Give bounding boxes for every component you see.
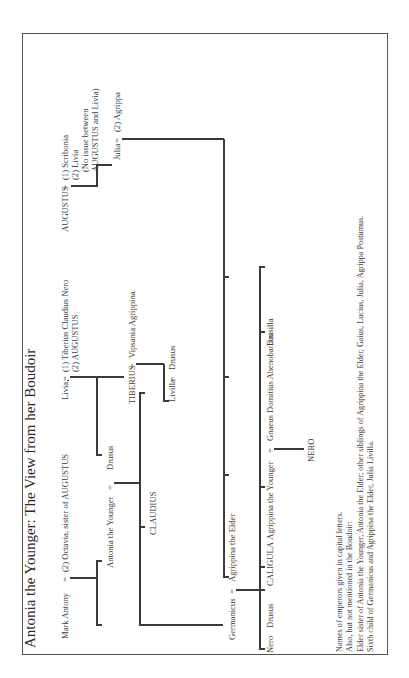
descent-line — [136, 363, 164, 365]
person-tiberius: TIBERIUS — [127, 365, 137, 404]
child-line-germanicus — [139, 624, 223, 626]
person-gnaeus: Gnaeus Domitius Ahenobarbus — [265, 334, 275, 441]
marriage-symbol: = — [112, 138, 122, 143]
person-drusus-younger: Drusus — [167, 346, 177, 370]
person-agrippina-younger: Agrippina the Younger — [265, 461, 275, 540]
child-tick — [96, 454, 102, 456]
sibling-bar — [139, 483, 141, 626]
note-4: Sixth child of Germanicus and Agrippina … — [366, 216, 376, 652]
descent-line — [114, 482, 140, 484]
child-tick — [223, 276, 229, 278]
child-tick-claudius — [139, 526, 145, 528]
child-tick — [223, 376, 229, 378]
person-caligula: CALIGULA — [265, 542, 275, 586]
note-1: Names of emperors given in capital lette… — [335, 216, 345, 652]
person-germanicus: Germanicus — [227, 598, 237, 640]
person-claudius: CLAUDIUS — [148, 492, 158, 535]
person-mark-antony: Mark Antony — [60, 593, 70, 639]
livia-spouse-2: (2) AUGUSTUS — [70, 314, 80, 372]
note-2: Also, but not mentioned in the Boudoir: — [345, 216, 355, 652]
person-octavia: (2) Octavia, sister of AUGUSTUS — [60, 454, 70, 572]
note-3: Elder sister of Antonia the Younger, Ant… — [356, 216, 366, 652]
person-nero-son: Nero — [265, 636, 275, 653]
augustus-spouse-2: (2) Livia — [70, 150, 80, 180]
sibling-bar-end — [259, 266, 265, 268]
marriage-symbol: = — [60, 577, 70, 582]
person-livilla: Livilla — [167, 379, 177, 402]
child-tick-drusus — [259, 589, 265, 591]
person-agrippa: (2) Agrippa — [112, 92, 122, 132]
child-tick-livilla — [139, 392, 145, 394]
person-nero-emperor: NERO — [306, 439, 316, 462]
connector — [67, 380, 69, 381]
descent-line — [70, 577, 97, 579]
diagram-title: Antonia the Younger: The View from her B… — [22, 349, 39, 648]
person-julia: Julia — [112, 144, 122, 160]
augustus-note-2: AUGUSTUS and Livia) — [90, 88, 100, 172]
branch-line — [163, 364, 165, 402]
person-livia: Livia — [60, 382, 70, 400]
footnotes: Names of emperors given in capital lette… — [335, 216, 377, 652]
descent-line — [122, 138, 224, 140]
person-drusilla: Drusilla — [265, 318, 275, 346]
child-tick — [96, 624, 102, 626]
person-agrippina-elder: Agrippina the Elder — [227, 514, 237, 582]
person-drusus-elder: Drusus — [105, 446, 115, 470]
child-tick — [223, 474, 229, 476]
marriage-symbol: = — [105, 485, 115, 490]
sibling-bar — [223, 139, 225, 578]
child-tick — [96, 164, 112, 166]
sibling-bar — [96, 377, 98, 456]
marriage-symbol: = — [60, 185, 70, 190]
descent-line — [274, 448, 304, 450]
descent-line — [236, 589, 260, 591]
person-vipsania: Vipsania Agrippina — [127, 291, 137, 358]
augustus-spouse-1: (1) Scribonia — [60, 135, 70, 180]
sibling-bar — [259, 267, 261, 650]
child-tick — [96, 376, 124, 378]
branch-line — [96, 165, 98, 187]
person-drusus-son: Drusus — [265, 604, 275, 628]
person-antonia-younger: Antonia the Younger — [105, 497, 115, 568]
descent-line — [71, 185, 97, 187]
augustus-note-1: (No issue between — [80, 109, 90, 172]
sibling-bar — [139, 393, 141, 484]
marriage-symbol: = — [167, 377, 177, 382]
child-tick — [96, 560, 102, 562]
descent-line — [70, 376, 97, 378]
sibling-bar — [96, 561, 98, 626]
livia-spouse-1: (1) Tiberius Claudius Nero — [60, 280, 70, 372]
rotated-page: Antonia the Younger: The View from her B… — [0, 0, 409, 678]
person-augustus: AUGUSTUS — [60, 186, 70, 232]
